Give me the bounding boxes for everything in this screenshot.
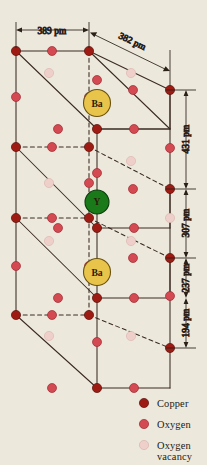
oxygen-atom — [12, 93, 21, 102]
oxygen-atom — [93, 169, 102, 178]
oxygen-atom — [48, 214, 57, 223]
copper-atom — [84, 142, 93, 151]
legend-swatch-oxygen-vacancy — [139, 440, 148, 449]
copper-atom — [11, 310, 20, 319]
copper-atom — [84, 213, 93, 222]
dim-label-431: 431 pm — [181, 124, 191, 154]
copper-atom — [92, 293, 101, 302]
legend-label-copper: Copper — [157, 398, 189, 409]
oxygen-atom — [54, 294, 63, 303]
oxygen-atom — [54, 224, 63, 233]
barium-top-label: Ba — [91, 98, 102, 109]
legend-label-oxygen-vacancy-line2: vacancy — [157, 451, 193, 462]
oxygen-atom — [85, 179, 94, 188]
legend-swatch-oxygen — [139, 419, 148, 428]
oxygen-atom — [54, 125, 63, 134]
oxygen-atom — [166, 144, 175, 153]
dim-label-194: 194 pm — [181, 308, 191, 338]
copper-atom — [92, 223, 101, 232]
oxygen-vacancy-atom — [165, 213, 174, 222]
oxygen-atom — [130, 224, 139, 233]
oxygen-atom — [129, 185, 138, 194]
legend-swatch-copper — [139, 398, 148, 407]
oxygen-atom — [93, 76, 102, 85]
oxygen-atom — [48, 47, 57, 56]
oxygen-atom — [12, 262, 21, 271]
copper-atom — [92, 383, 101, 392]
crystal-structure-svg: Ba Y Ba — [0, 0, 207, 465]
copper-atom — [84, 310, 93, 319]
oxygen-vacancy-atom — [44, 178, 53, 187]
oxygen-vacancy-atom — [126, 236, 135, 245]
oxygen-atom — [93, 338, 102, 347]
oxygen-atom — [130, 125, 139, 134]
yttrium-label: Y — [94, 196, 101, 207]
legend-label-oxygen: Oxygen — [157, 419, 191, 430]
oxygen-vacancy-atom — [44, 236, 53, 245]
legend-label-oxygen-vacancy: Oxygen — [157, 440, 191, 451]
dim-label-a-axis: 389 pm — [38, 26, 68, 36]
oxygen-vacancy-atom — [44, 68, 53, 77]
dim-label-237: 237 pm — [181, 263, 191, 293]
oxygen-atom — [129, 86, 138, 95]
oxygen-vacancy-atom — [126, 156, 135, 165]
oxygen-atom — [48, 143, 57, 152]
copper-atom — [92, 124, 101, 133]
oxygen-atom — [130, 294, 139, 303]
dim-label-307: 307 pm — [181, 208, 191, 238]
copper-atom — [11, 142, 20, 151]
oxygen-atom — [48, 311, 57, 320]
oxygen-atom — [129, 254, 138, 263]
oxygen-vacancy-atom — [44, 331, 53, 340]
oxygen-vacancy-atom — [126, 68, 135, 77]
oxygen-atom — [130, 384, 139, 393]
copper-atom — [11, 213, 20, 222]
oxygen-atom — [166, 292, 175, 301]
barium-bottom-label: Ba — [91, 267, 102, 278]
oxygen-atom — [48, 384, 57, 393]
ybco-unit-cell-figure: Ba Y Ba — [0, 0, 207, 465]
oxygen-vacancy-atom — [126, 331, 135, 340]
